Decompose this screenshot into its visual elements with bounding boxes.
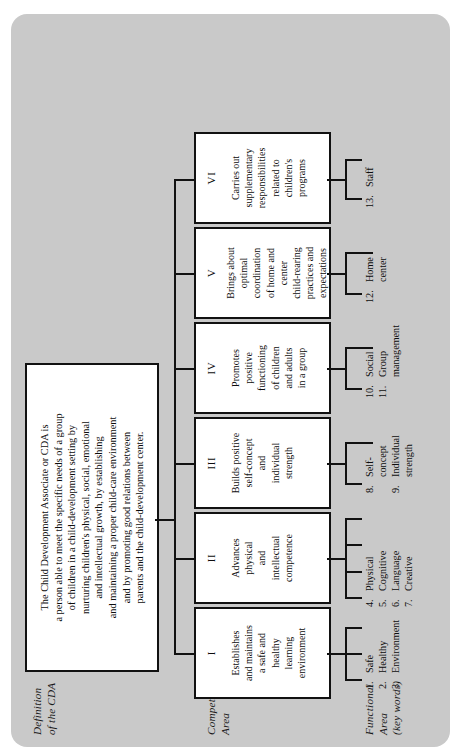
competency-5-line-3: of home and <box>265 248 276 298</box>
competency-text-3: Builds positive self-concept and individ… <box>229 423 295 503</box>
connector-fa-stem-5 <box>327 273 346 275</box>
competency-4-line-4: and adults <box>283 348 294 389</box>
competency-numeral-4: IV <box>205 324 217 412</box>
competency-4-line-2: functioning <box>256 345 267 391</box>
diagram-card: Definition of the CDA Competency Area Fu… <box>11 14 450 747</box>
competency-5-line-4: center <box>278 261 289 285</box>
competency-numeral-3: III <box>205 419 217 507</box>
functional-item-6-num: 6. <box>389 591 402 607</box>
functional-item-10-num: 10. <box>363 377 376 398</box>
competency-box-2: II Advances physical and intellectual co… <box>194 512 331 604</box>
competency-text-4: Promotes positive functioning of childre… <box>229 328 308 408</box>
competency-2-line-3: intellectual <box>270 536 281 580</box>
competency-2-line-0: Advances <box>230 538 241 577</box>
definition-line-1: a person able to meet the specific needs… <box>53 413 64 621</box>
functional-item-6-label: Language <box>390 551 401 591</box>
competency-numeral-5: V <box>205 229 217 317</box>
definition-line-3: nurturing children's physical, social, e… <box>80 421 91 614</box>
competency-1-line-4: learning <box>283 637 294 670</box>
bracket-group-6 <box>345 160 347 200</box>
competency-4-line-0: Promotes <box>230 349 241 387</box>
connector-drop-5 <box>174 273 194 275</box>
competency-box-1: I Establishes and maintains a safe and h… <box>194 607 331 699</box>
bracket-group-3 <box>345 443 347 485</box>
functional-item-7-num: 7. <box>402 591 415 607</box>
bracket-group-3-tick-a <box>345 483 362 485</box>
competency-numeral-6: VI <box>205 134 217 222</box>
definition-line-6: and by promoting good relations between <box>121 432 132 603</box>
competency-box-6: VI Carries out supplementary responsibil… <box>194 132 331 224</box>
functional-item-5: 5.Cognitive <box>376 551 389 607</box>
definition-line-7: parents and the child-development center… <box>134 432 145 604</box>
competency-3-line-0: Builds positive <box>230 433 241 493</box>
competency-3-line-2: and <box>256 456 267 470</box>
connector-fa-stem-2 <box>327 558 346 560</box>
functional-item-11-num: 11. <box>376 377 389 398</box>
definition-line-5: and maintaining a proper child-care envi… <box>107 417 118 619</box>
bracket-group-5-tick-b <box>345 252 373 254</box>
functional-item-10: 10.Social <box>363 325 376 398</box>
bracket-group-6-tick-b <box>345 159 362 161</box>
functional-item-13-label: Staff <box>364 167 375 187</box>
rotated-diagram-wrapper: Definition of the CDA Competency Area Fu… <box>11 14 450 747</box>
connector-drop-6 <box>174 179 194 181</box>
functional-item-3-num: 3. <box>389 673 402 689</box>
functional-item-5-num: 5. <box>376 591 389 607</box>
competency-4-line-1: positive <box>243 352 254 384</box>
competency-text-6: Carries out supplementary responsibiliti… <box>229 138 308 218</box>
competency-6-line-1: supplementary <box>243 149 254 208</box>
functional-item-11: 11.Group management <box>376 325 402 398</box>
bracket-group-2 <box>345 519 347 599</box>
page-root: Definition of the CDA Competency Area Fu… <box>0 0 461 754</box>
competency-2-line-1: physical <box>243 541 254 574</box>
bracket-group-1-tick-c <box>345 627 362 629</box>
competency-1-line-2: a safe and <box>256 633 267 673</box>
functional-item-4: 4.Physical <box>363 551 376 607</box>
bracket-group-1-tick-b <box>345 653 362 655</box>
competency-5-line-1: optimal <box>238 258 249 289</box>
competency-text-2: Advances physical and intellectual compe… <box>229 518 295 598</box>
connector-drop-2 <box>174 558 194 560</box>
functional-group-4: 10.Social 11.Group management <box>363 325 402 398</box>
competency-box-5: V Brings about optimal coordination of h… <box>194 227 331 319</box>
competency-box-4: IV Promotes positive functioning of chil… <box>194 322 331 414</box>
row-label-definition-line1: Definition <box>31 683 45 735</box>
competency-1-line-3: healthy <box>270 638 281 667</box>
bracket-group-5-tick-a <box>345 293 362 295</box>
connector-fa-stem-1 <box>327 653 346 655</box>
competency-3-line-1: self-concept <box>243 439 254 488</box>
functional-item-10-label: Social <box>364 352 375 377</box>
functional-item-3: 3.Environment <box>389 620 402 689</box>
functional-item-1-num: 1. <box>363 673 376 689</box>
functional-item-2-num: 2. <box>376 673 389 689</box>
functional-group-2: 4.Physical 5.Cognitive 6.Language 7.Crea… <box>363 551 415 607</box>
connector-drop-1 <box>174 653 194 655</box>
connector-fa-stem-4 <box>327 368 346 370</box>
connector-drop-3 <box>174 463 194 465</box>
functional-group-1: 1.Safe 2.Healthy 3.Environment <box>363 620 402 689</box>
competency-2-line-4: competence <box>283 534 294 582</box>
functional-item-11-cont: management <box>389 325 402 398</box>
competency-1-line-5: environment <box>296 628 307 679</box>
definition-text: The Child Development Associate or CDA i… <box>27 365 147 670</box>
competency-numeral-2: II <box>205 514 217 602</box>
functional-item-12-label: Home <box>364 257 375 282</box>
functional-item-1-label: Safe <box>364 655 375 673</box>
row-label-definition-line2: of the CDA <box>45 683 59 735</box>
functional-item-4-num: 4. <box>363 591 376 607</box>
competency-box-3: III Builds positive self-concept and ind… <box>194 417 331 509</box>
functional-item-8: 8.Self- concept <box>363 435 389 493</box>
functional-item-12: 12.Home center <box>363 257 389 303</box>
functional-item-9-label: Individual <box>390 435 401 477</box>
bracket-group-1-tick-a <box>345 679 362 681</box>
bracket-group-5 <box>345 253 347 295</box>
competency-5-line-6: practices and <box>304 247 315 299</box>
functional-item-6: 6.Language <box>389 551 402 607</box>
functional-item-8-num: 8. <box>363 477 376 493</box>
competency-1-line-0: Establishes <box>230 631 241 676</box>
row-label-definition: Definition of the CDA <box>31 683 58 735</box>
functional-item-13: 13.Staff <box>363 167 376 208</box>
connector-fa-stem-3 <box>327 463 346 465</box>
functional-item-7: 7.Creative <box>402 551 415 607</box>
functional-item-11-label: Group <box>377 351 388 377</box>
